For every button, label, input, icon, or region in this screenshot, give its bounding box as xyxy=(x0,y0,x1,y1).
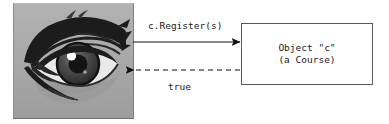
return-message-label: true xyxy=(168,81,191,92)
object-c-class: (a Course) xyxy=(278,54,335,66)
object-c-name: Object "c" xyxy=(278,42,335,54)
interaction-diagram: c.Register(s) true Object "c" (a Course) xyxy=(0,0,389,124)
object-c-box: Object "c" (a Course) xyxy=(241,23,373,85)
call-message-label: c.Register(s) xyxy=(148,20,222,31)
eye-photo-actor xyxy=(13,3,134,119)
eye-illustration xyxy=(14,4,133,118)
